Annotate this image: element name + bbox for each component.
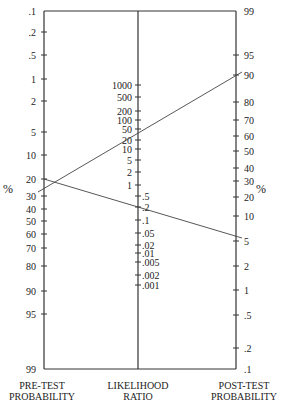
likelihood-ratio-tick-label: 50 bbox=[122, 124, 132, 135]
pre-test-tick-label: 2 bbox=[31, 96, 36, 107]
likelihood-ratio-tick-label: 500 bbox=[117, 92, 132, 103]
pre-test-tick-label: 60 bbox=[26, 229, 36, 240]
post-test-tick-label: 30 bbox=[244, 176, 254, 187]
pre-test-tick-label: 40 bbox=[26, 204, 36, 215]
post-test-tick-label: .5 bbox=[244, 310, 252, 321]
pre-test-tick-label: 99 bbox=[26, 364, 36, 375]
post-test-tick-label: 20 bbox=[244, 192, 254, 203]
pre-test-tick-label: 1 bbox=[31, 74, 36, 85]
post-test-tick-label: 2 bbox=[244, 261, 249, 272]
post-test-tick-label: 90 bbox=[244, 70, 254, 81]
likelihood-ratio-tick-label: .5 bbox=[142, 191, 150, 202]
post-test-tick-label: 99 bbox=[244, 6, 254, 17]
post-test-tick-label: 70 bbox=[244, 115, 254, 126]
pre-test-tick-label: .2 bbox=[29, 27, 37, 38]
nomogram-canvas: .1.2.51251020304050607080909599999590807… bbox=[0, 0, 283, 410]
likelihood-ratio-tick-label: .05 bbox=[142, 228, 155, 239]
pre-test-tick-label: .1 bbox=[29, 6, 37, 17]
pre-test-tick-label: 10 bbox=[26, 150, 36, 161]
post-test-tick-label: 95 bbox=[244, 50, 254, 61]
pre-test-tick-label: 80 bbox=[26, 261, 36, 272]
likelihood-ratio-tick-label: .1 bbox=[142, 215, 150, 226]
post-test-tick-label: 1 bbox=[244, 285, 249, 296]
post-test-tick-label: 10 bbox=[244, 211, 254, 222]
post-test-tick-label: 60 bbox=[244, 131, 254, 142]
post-test-tick-label: 5 bbox=[244, 236, 249, 247]
right-axis-unit: % bbox=[256, 184, 266, 195]
pre-test-tick-label: 5 bbox=[31, 127, 36, 138]
positive-test-line bbox=[38, 72, 242, 192]
pre-test-tick-label: 30 bbox=[26, 191, 36, 202]
post-test-probability-label: POST-TEST PROBABILITY bbox=[202, 380, 283, 402]
likelihood-ratio-tick-label: 5 bbox=[127, 155, 132, 166]
likelihood-ratio-tick-label: .005 bbox=[142, 257, 160, 268]
post-test-tick-label: 40 bbox=[244, 163, 254, 174]
pre-test-tick-label: .5 bbox=[29, 50, 37, 61]
post-test-tick-label: .2 bbox=[244, 343, 252, 354]
post-test-tick-label: 80 bbox=[244, 97, 254, 108]
pre-test-tick-label: 50 bbox=[26, 216, 36, 227]
pre-test-probability-label: PRE-TEST PROBABILITY bbox=[0, 380, 84, 402]
likelihood-ratio-tick-label: 1000 bbox=[112, 80, 132, 91]
post-test-tick-label: 50 bbox=[244, 146, 254, 157]
likelihood-ratio-label: LIKELIHOOD RATIO bbox=[98, 380, 178, 402]
pre-test-tick-label: 90 bbox=[26, 286, 36, 297]
likelihood-ratio-tick-label: 2 bbox=[127, 167, 132, 178]
pre-test-tick-label: 20 bbox=[26, 174, 36, 185]
left-axis-unit: % bbox=[3, 184, 13, 195]
likelihood-ratio-tick-label: 10 bbox=[122, 144, 132, 155]
likelihood-ratio-tick-label: .001 bbox=[142, 280, 160, 291]
likelihood-ratio-tick-label: .2 bbox=[142, 202, 150, 213]
likelihood-ratio-tick-label: 1 bbox=[127, 180, 132, 191]
pre-test-tick-label: 70 bbox=[26, 243, 36, 254]
post-test-tick-label: .1 bbox=[244, 364, 252, 375]
pre-test-tick-label: 95 bbox=[26, 309, 36, 320]
